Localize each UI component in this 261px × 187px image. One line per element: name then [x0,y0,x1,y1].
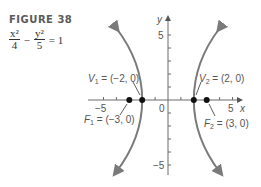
y-tick-neg5-label: −5 [153,160,165,171]
y-tick-5-label: 5 [158,30,164,41]
f2-leader [209,104,215,116]
v1-label: V1 = (−2, 0) [88,73,139,85]
vertex-v2-point [191,97,197,103]
vertex-v1-point [139,97,145,103]
f2-label: F2 = (3, 0) [204,118,249,130]
hyperbola-plot: y 5 −5 −5 5 x 0 V1 = (−2, 0) V2 = (2, 0)… [0,0,261,187]
f1-label: F1 = (−3, 0) [84,114,135,126]
origin-label: 0 [159,103,165,114]
y-axis-label: y [156,14,163,25]
focus-f2-point [204,97,210,103]
x-tick-neg5-label: −5 [95,103,107,114]
focus-f1-point [126,97,132,103]
v2-label: V2 = (2, 0) [199,73,244,85]
x-axis-label: x [239,103,246,114]
x-tick-5-label: 5 [228,103,234,114]
